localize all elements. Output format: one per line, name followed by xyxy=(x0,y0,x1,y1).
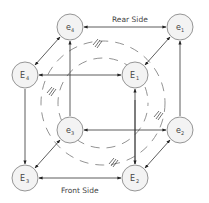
edge-e2-E2 xyxy=(145,140,170,168)
wave-icon xyxy=(109,158,118,167)
wave-icon xyxy=(47,87,56,96)
node-label: E xyxy=(20,71,25,80)
wave-icon xyxy=(93,39,102,48)
wave-icon xyxy=(154,111,163,120)
svg-text:2: 2 xyxy=(136,178,139,184)
node-e4: e 4 xyxy=(57,14,83,40)
svg-text:4: 4 xyxy=(26,75,29,81)
svg-text:3: 3 xyxy=(71,130,74,136)
dashed-arcs xyxy=(41,41,165,165)
edge-e4-E4 xyxy=(35,37,60,65)
cube-diagram: e 4 e 1 E 4 E 1 e 3 e 2 E 3 E 2 Rear Sid… xyxy=(0,0,209,203)
svg-text:4: 4 xyxy=(71,27,74,33)
svg-text:1: 1 xyxy=(136,75,139,81)
node-E2: E 2 xyxy=(122,165,148,191)
node-e3: e 3 xyxy=(57,117,83,143)
node-label: E xyxy=(130,71,135,80)
rear-side-label: Rear Side xyxy=(112,15,148,24)
node-E1: E 1 xyxy=(122,62,148,88)
front-side-label: Front Side xyxy=(61,186,99,195)
node-e2: e 2 xyxy=(167,117,193,143)
svg-text:2: 2 xyxy=(181,130,184,136)
node-E4: E 4 xyxy=(12,62,38,88)
node-label: E xyxy=(20,174,25,183)
edges xyxy=(25,27,180,178)
svg-text:1: 1 xyxy=(181,27,184,33)
node-E3: E 3 xyxy=(12,165,38,191)
node-e1: e 1 xyxy=(167,14,193,40)
svg-text:3: 3 xyxy=(26,178,29,184)
edge-e1-E1 xyxy=(145,37,170,65)
node-label: E xyxy=(130,174,135,183)
edge-e3-E3 xyxy=(35,140,60,168)
